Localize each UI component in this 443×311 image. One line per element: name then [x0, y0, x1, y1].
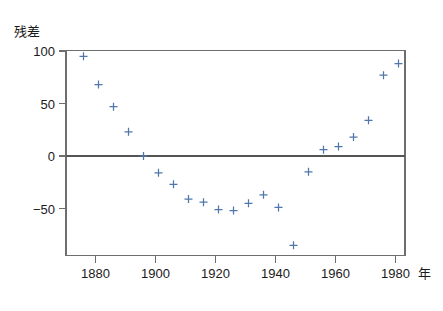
data-point: [275, 203, 283, 211]
data-point: [215, 206, 223, 214]
data-point: [260, 191, 268, 199]
plot-frame: [66, 51, 405, 256]
x-tick-label-1900: 1900: [141, 266, 170, 281]
data-point: [125, 128, 133, 136]
residual-scatter-plot: 100 50 0 −50 1880 1900 1920 1940 1960 19…: [0, 0, 443, 311]
data-point: [245, 199, 253, 207]
frame-box: [66, 51, 405, 256]
y-tick-label-0: 0: [48, 149, 55, 164]
y-tick-label-neg50: −50: [33, 202, 55, 217]
x-tick-label-1880: 1880: [81, 266, 110, 281]
data-point: [380, 71, 388, 79]
data-point: [80, 52, 88, 60]
data-point: [335, 143, 343, 151]
data-point: [110, 103, 118, 111]
y-tick-label-50: 50: [41, 97, 55, 112]
data-point: [155, 169, 163, 177]
x-axis-ticks: [96, 256, 396, 263]
data-point: [95, 81, 103, 89]
chart-canvas: 100 50 0 −50 1880 1900 1920 1940 1960 19…: [0, 0, 443, 311]
x-tick-label-1940: 1940: [261, 266, 290, 281]
y-axis-title: 残差: [14, 24, 40, 39]
data-point: [185, 195, 193, 203]
y-axis-ticks: [59, 51, 66, 209]
x-tick-label-1920: 1920: [201, 266, 230, 281]
data-point: [170, 180, 178, 188]
x-tick-label-1960: 1960: [321, 266, 350, 281]
y-tick-label-100: 100: [33, 44, 55, 59]
data-point: [230, 207, 238, 215]
data-point: [365, 116, 373, 124]
data-point: [395, 60, 403, 68]
x-tick-label-1980: 1980: [381, 266, 410, 281]
data-point: [305, 168, 313, 176]
data-point: [320, 146, 328, 154]
data-point-group: [80, 52, 403, 249]
x-axis-title: 年: [418, 266, 431, 281]
data-point: [350, 133, 358, 141]
data-point: [140, 152, 148, 160]
data-point: [290, 241, 298, 249]
data-point: [200, 198, 208, 206]
